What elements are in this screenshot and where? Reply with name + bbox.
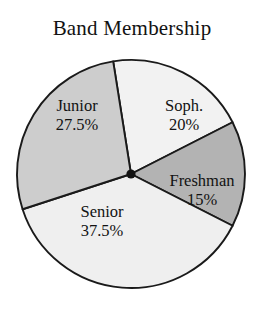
- pie-chart-svg: [0, 0, 264, 317]
- pie-center-dot: [126, 169, 135, 178]
- pie-chart-figure: Band Membership Junior 27.5% Soph. 20% F…: [0, 0, 264, 317]
